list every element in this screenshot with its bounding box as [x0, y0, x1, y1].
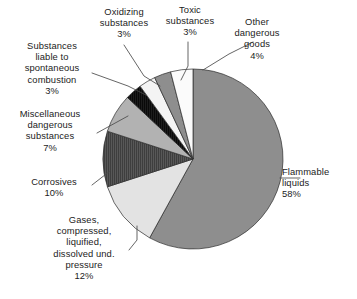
- slice-label-spontaneous-combustion: Substances liable to spontaneous combust…: [8, 40, 96, 96]
- slice-label-corrosives: Corrosives 10%: [16, 176, 92, 198]
- slice-label-other-dangerous-goods: Other dangerous goods 4%: [222, 16, 292, 61]
- slice-label-oxidizing-substances: Oxidizing substances 3%: [88, 6, 160, 40]
- slice-label-flammable-liquids: Flammable liquids 58%: [282, 166, 354, 200]
- leader-line-gases: [129, 226, 137, 250]
- slice-label-toxic-substances: Toxic substances 3%: [157, 4, 223, 38]
- pie-chart-figure: Oxidizing substances 3% Toxic substances…: [0, 0, 357, 299]
- slice-label-miscellaneous-dangerous-substances: Miscellaneous dangerous substances 7%: [4, 108, 96, 153]
- slice-label-gases-compressed: Gases, compressed, liquified, dissolved …: [38, 214, 130, 281]
